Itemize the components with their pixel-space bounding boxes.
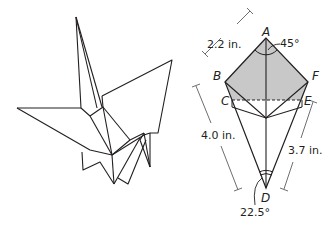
point-label-A: A bbox=[261, 25, 270, 39]
point-label-D: D bbox=[261, 191, 270, 205]
angle-label-A: 45° bbox=[280, 37, 300, 50]
point-label-C: C bbox=[221, 94, 230, 108]
measurement-BD: 4.0 in. bbox=[201, 129, 236, 142]
measurement-AB: 2.2 in. bbox=[207, 38, 242, 51]
measurement-ED: 3.7 in. bbox=[288, 144, 323, 157]
origami-crane-drawing bbox=[17, 17, 172, 184]
angle-label-D: 22.5° bbox=[240, 206, 270, 219]
point-label-E: E bbox=[304, 94, 312, 108]
point-label-F: F bbox=[312, 69, 320, 83]
kite-diagram: A B C D E F 2.2 in. 4.0 in. 3.7 in. 45° … bbox=[192, 8, 323, 219]
point-label-B: B bbox=[213, 69, 221, 83]
fold-lines-lower bbox=[232, 107, 302, 118]
figure: A B C D E F 2.2 in. 4.0 in. 3.7 in. 45° … bbox=[0, 0, 336, 235]
